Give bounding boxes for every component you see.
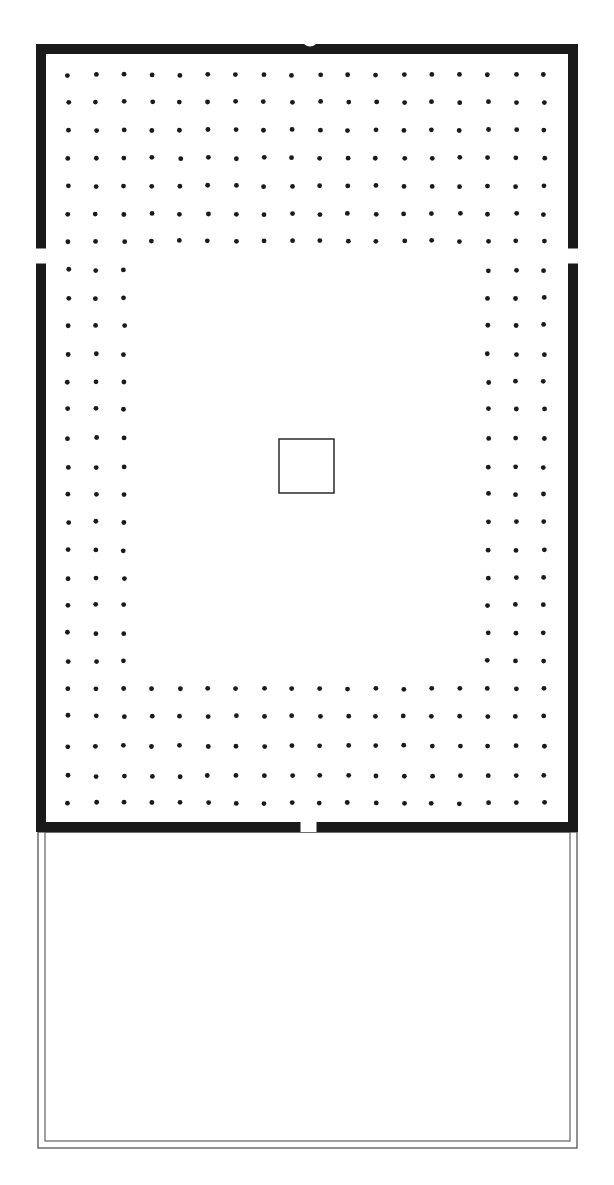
column bbox=[374, 183, 379, 188]
column bbox=[346, 714, 351, 719]
column bbox=[93, 323, 98, 328]
column bbox=[234, 239, 239, 244]
column bbox=[122, 800, 127, 805]
column bbox=[65, 239, 70, 244]
column bbox=[486, 630, 491, 635]
column bbox=[346, 156, 351, 161]
column bbox=[486, 127, 491, 132]
column bbox=[94, 713, 99, 718]
column bbox=[66, 267, 71, 272]
column bbox=[121, 407, 126, 412]
column bbox=[513, 714, 518, 719]
column bbox=[513, 464, 518, 469]
column bbox=[149, 155, 154, 160]
column bbox=[122, 239, 127, 244]
column bbox=[122, 714, 127, 719]
column bbox=[542, 100, 547, 105]
column bbox=[94, 800, 99, 805]
column bbox=[93, 548, 98, 553]
column bbox=[290, 211, 295, 216]
column bbox=[66, 659, 71, 664]
column bbox=[122, 127, 127, 132]
column bbox=[262, 714, 267, 719]
column bbox=[149, 128, 154, 133]
column bbox=[121, 267, 126, 272]
column bbox=[485, 714, 490, 719]
column bbox=[401, 212, 406, 217]
column bbox=[177, 128, 182, 133]
column bbox=[205, 100, 210, 105]
column bbox=[542, 744, 547, 749]
column bbox=[485, 603, 490, 608]
column bbox=[485, 686, 490, 691]
column bbox=[374, 801, 379, 806]
column bbox=[94, 72, 99, 77]
column bbox=[150, 774, 155, 779]
column bbox=[149, 239, 154, 244]
column bbox=[205, 72, 210, 77]
column bbox=[485, 155, 490, 160]
column bbox=[262, 72, 267, 77]
column bbox=[541, 379, 546, 384]
column bbox=[93, 744, 98, 749]
column bbox=[541, 575, 546, 580]
column bbox=[149, 184, 154, 189]
column bbox=[206, 127, 211, 132]
column bbox=[430, 744, 435, 749]
column bbox=[542, 239, 547, 244]
column bbox=[177, 100, 182, 105]
column bbox=[290, 800, 295, 805]
column bbox=[318, 72, 323, 77]
column bbox=[94, 379, 99, 384]
column bbox=[514, 127, 519, 132]
column bbox=[514, 100, 519, 105]
column bbox=[542, 686, 547, 691]
column bbox=[486, 406, 491, 411]
column bbox=[541, 128, 546, 133]
column bbox=[206, 744, 211, 749]
column bbox=[150, 714, 155, 719]
column bbox=[514, 773, 519, 778]
column bbox=[486, 99, 491, 104]
column bbox=[541, 659, 546, 664]
column bbox=[94, 631, 99, 636]
column bbox=[94, 576, 99, 581]
column bbox=[121, 548, 126, 553]
column bbox=[345, 128, 350, 133]
column bbox=[402, 156, 407, 161]
column bbox=[514, 323, 519, 328]
column bbox=[234, 212, 239, 217]
column bbox=[485, 323, 490, 328]
column bbox=[513, 602, 518, 607]
column bbox=[485, 296, 490, 301]
column bbox=[429, 686, 434, 691]
column bbox=[317, 686, 322, 691]
column bbox=[401, 743, 406, 748]
column bbox=[345, 184, 350, 189]
column bbox=[262, 238, 267, 243]
column bbox=[429, 72, 434, 77]
column bbox=[65, 73, 70, 78]
column bbox=[262, 773, 267, 778]
column bbox=[513, 659, 518, 664]
column bbox=[177, 212, 182, 217]
column bbox=[290, 100, 295, 105]
column bbox=[177, 743, 182, 748]
column bbox=[514, 519, 519, 524]
column bbox=[402, 239, 407, 244]
column bbox=[122, 492, 127, 497]
column bbox=[65, 801, 70, 806]
column bbox=[486, 576, 491, 581]
column bbox=[261, 184, 266, 189]
column bbox=[290, 184, 295, 189]
column bbox=[402, 100, 407, 105]
column bbox=[94, 406, 99, 411]
column bbox=[541, 773, 546, 778]
column bbox=[374, 127, 379, 132]
column bbox=[177, 73, 182, 78]
outer-wall bbox=[41, 49, 573, 827]
column bbox=[402, 774, 407, 779]
column bbox=[261, 128, 266, 133]
column bbox=[93, 239, 98, 244]
column bbox=[486, 800, 491, 805]
